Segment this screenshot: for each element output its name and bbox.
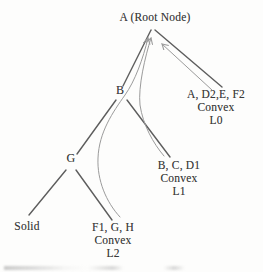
scan-artifact-smudge [4,266,185,270]
edge-root-to-hull-l0 [155,30,222,87]
root-node-label: A (Root Node) [95,11,215,24]
hull-l0-members: A, D2,E, F2 [171,88,261,101]
hull-l2-level: L2 [71,247,155,260]
edge-root-to-b [123,30,151,86]
hull-l2-members: F1, G, H [71,221,155,234]
tree-diagram-figure: A (Root Node) B G Solid F1, G, H Convex … [0,0,263,272]
node-g-label: G [62,152,80,165]
hull-l2-label: F1, G, H Convex L2 [71,221,155,260]
hull-l1-type: Convex [138,172,220,185]
arrow-hull-l0-to-root [162,44,212,90]
hull-l1-level: L1 [138,185,220,198]
hull-l0-type: Convex [171,101,261,114]
hull-l0-level: L0 [171,114,261,127]
edge-g-to-solid [29,170,66,215]
hull-l2-type: Convex [71,234,155,247]
leaf-solid-label: Solid [4,220,50,233]
edge-g-to-hull-l2 [76,170,112,220]
node-b-label: B [111,84,129,97]
hull-l1-label: B, C, D1 Convex L1 [138,159,220,198]
edge-b-to-hull-l1 [127,100,170,157]
hull-l1-members: B, C, D1 [138,159,220,172]
edge-b-to-g [77,100,116,154]
hull-l0-label: A, D2,E, F2 Convex L0 [171,88,261,127]
